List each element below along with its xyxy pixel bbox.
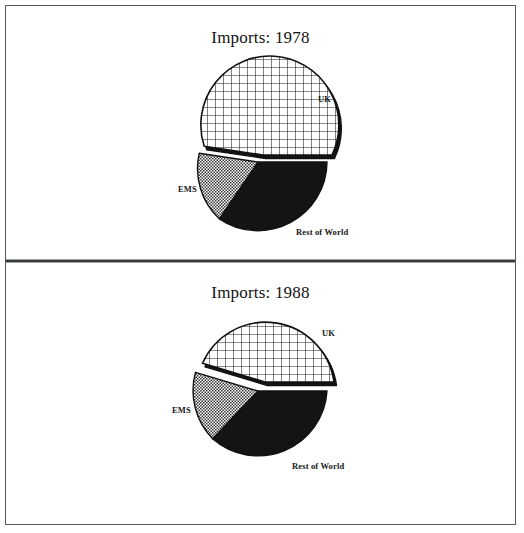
pie-label-ems-1978: EMS bbox=[178, 184, 197, 194]
pie-chart-1988: UK EMS Rest of World bbox=[194, 303, 374, 478]
pie-label-uk-1978: UK bbox=[318, 94, 331, 104]
pie-svg-1988 bbox=[194, 303, 374, 478]
chart-panel-1978: Imports: 1978 bbox=[6, 6, 515, 259]
chart-panel-1988: Imports: 1988 bbox=[6, 263, 515, 524]
pie-slice-uk-1978[interactable] bbox=[201, 56, 341, 158]
chart-title-1988: Imports: 1988 bbox=[6, 283, 515, 303]
chart-title-1978: Imports: 1978 bbox=[6, 28, 515, 48]
pie-slice-uk-1988[interactable] bbox=[203, 322, 337, 385]
pie-label-rest-of-world-1978: Rest of World bbox=[296, 227, 348, 237]
pie-label-ems-1988: EMS bbox=[172, 405, 191, 415]
pie-svg-1978 bbox=[194, 74, 374, 249]
pie-label-uk-1988: UK bbox=[322, 328, 335, 338]
pie-label-rest-of-world-1988: Rest of World bbox=[292, 461, 344, 471]
figure-frame: Imports: 1978 bbox=[5, 5, 516, 525]
pie-chart-1978: UK EMS Rest of World bbox=[194, 74, 374, 249]
